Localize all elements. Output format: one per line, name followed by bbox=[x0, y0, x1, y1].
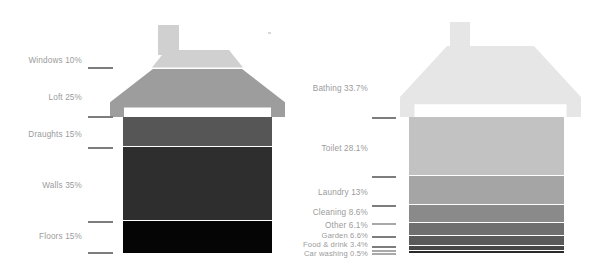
segment-other-band bbox=[409, 223, 564, 236]
label-toilet: Toilet 28.1% bbox=[290, 144, 368, 154]
label-cleaning: Cleaning 8.6% bbox=[290, 208, 368, 218]
label-laundry: Laundry 13% bbox=[290, 188, 368, 198]
tick-floors bbox=[88, 252, 113, 254]
water-use-house: Bathing 33.7% Toilet 28.1% Laundry 13% C… bbox=[290, 0, 591, 271]
tick-draughts bbox=[88, 147, 113, 149]
segment-bathing-shape bbox=[400, 46, 581, 117]
tick-windows bbox=[88, 67, 113, 69]
tick-cleaning bbox=[372, 223, 396, 225]
scan-speck bbox=[268, 32, 271, 34]
segment-draughts-band bbox=[123, 117, 272, 147]
label-floors: Floors 15% bbox=[0, 232, 82, 242]
tick-toilet bbox=[372, 176, 396, 178]
tick-car-washing bbox=[372, 253, 396, 255]
segment-garden-band bbox=[409, 236, 564, 246]
tick-food-drink bbox=[372, 250, 396, 252]
segment-laundry-band bbox=[409, 176, 564, 205]
tick-walls bbox=[88, 221, 113, 223]
segment-walls-band bbox=[123, 147, 272, 221]
label-bathing: Bathing 33.7% bbox=[290, 84, 368, 94]
infographic-canvas: Windows 10% Loft 25% Draughts 15% Walls … bbox=[0, 0, 591, 271]
tick-loft bbox=[88, 116, 113, 118]
label-loft: Loft 25% bbox=[0, 93, 82, 103]
segment-cleaning-band bbox=[409, 205, 564, 223]
tick-garden bbox=[372, 246, 396, 248]
tick-bathing bbox=[372, 117, 396, 119]
segment-floors-band bbox=[123, 221, 272, 253]
roof-left bbox=[110, 50, 285, 117]
label-other: Other 6.1% bbox=[290, 221, 368, 231]
heat-loss-house: Windows 10% Loft 25% Draughts 15% Walls … bbox=[0, 0, 295, 271]
label-draughts: Draughts 15% bbox=[0, 130, 82, 140]
segment-car-washing-band bbox=[409, 251, 564, 253]
heat-house-body bbox=[123, 117, 272, 253]
label-walls: Walls 35% bbox=[0, 181, 82, 191]
label-car-washing: Car washing 0.5% bbox=[290, 250, 368, 259]
tick-laundry bbox=[372, 205, 396, 207]
label-windows: Windows 10% bbox=[0, 56, 82, 66]
water-house-body bbox=[409, 117, 564, 253]
roof-right bbox=[400, 46, 581, 117]
tick-other bbox=[372, 236, 396, 238]
segment-toilet-band bbox=[409, 117, 564, 176]
